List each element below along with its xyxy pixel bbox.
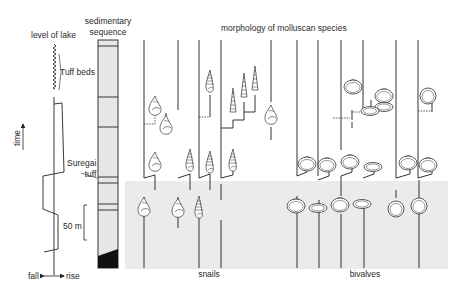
snail-shells — [138, 66, 277, 218]
tuff-beds-bracket — [59, 54, 61, 90]
lineage-lines — [144, 40, 432, 268]
sedimentary-column — [98, 40, 118, 268]
molluscan-evolution-diagram — [0, 0, 452, 286]
bivalve-shells — [287, 80, 437, 218]
lake-level-curve — [43, 44, 64, 275]
suregai-tuff-pointer — [81, 173, 97, 178]
scale-bar — [84, 205, 87, 240]
dotted-links — [144, 111, 432, 124]
